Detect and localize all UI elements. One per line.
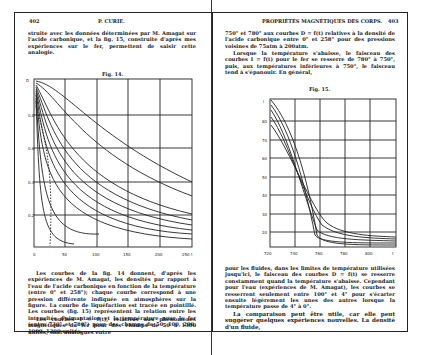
- svg-text:50: 50: [262, 175, 268, 180]
- svg-text:80: 80: [262, 119, 268, 124]
- fig14-chart: D0.80.6 0.40.2 050100 150200250 t: [24, 76, 202, 262]
- right-body-text: pour les fluides, dans les limites de te…: [225, 265, 395, 310]
- svg-text:I: I: [263, 99, 264, 104]
- left-intro-text: struite avec les données déterminées par…: [28, 30, 196, 56]
- svg-text:0.2: 0.2: [28, 213, 35, 218]
- fig15-chart: I8070 605040 3020 720740760 780800t: [262, 95, 402, 257]
- svg-text:740: 740: [290, 251, 298, 256]
- svg-text:0.8: 0.8: [28, 113, 35, 118]
- svg-text:0.4: 0.4: [28, 180, 35, 185]
- svg-text:70: 70: [262, 138, 268, 143]
- left-page-number: 402: [29, 18, 39, 24]
- left-body-text-2: Les courbes I = f(t), relatives aux phén…: [28, 316, 196, 335]
- svg-text:0.6: 0.6: [28, 146, 35, 151]
- fig15-caption: Fig. 15.: [309, 86, 330, 92]
- svg-text:200: 200: [155, 252, 163, 257]
- book-gutter: [211, 0, 212, 355]
- right-running-head: PROPRIÉTÉS MAGNÉTIQUES DES CORPS.: [262, 18, 382, 24]
- svg-text:20: 20: [262, 230, 268, 235]
- right-page-number: 403: [388, 18, 398, 24]
- svg-text:800: 800: [365, 251, 373, 256]
- svg-text:780: 780: [340, 251, 348, 256]
- svg-text:40: 40: [262, 193, 268, 198]
- svg-text:D: D: [26, 78, 29, 83]
- svg-text:30: 30: [262, 212, 268, 217]
- svg-text:60: 60: [262, 156, 268, 161]
- svg-text:250 t: 250 t: [182, 252, 193, 257]
- svg-text:720: 720: [264, 251, 272, 256]
- svg-text:t: t: [392, 251, 394, 256]
- right-intro-text-2: Lorsque la température s'abaisse, le fai…: [225, 50, 395, 76]
- right-body-text-2: La comparaison peut être utile, car elle…: [225, 311, 395, 330]
- svg-text:100: 100: [92, 252, 100, 257]
- left-running-head: P. CURIE.: [98, 18, 125, 24]
- right-intro-text: 750° et 780° aux courbes D = f(t) relati…: [225, 30, 395, 49]
- svg-text:760: 760: [315, 251, 323, 256]
- svg-text:0: 0: [33, 252, 36, 257]
- svg-text:50: 50: [62, 252, 68, 257]
- svg-text:150: 150: [123, 252, 131, 257]
